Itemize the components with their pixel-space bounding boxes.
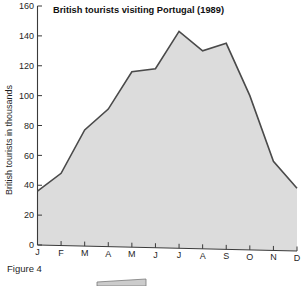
figure-caption: Figure 4 — [7, 263, 42, 274]
figure-container: 020406080100120140160 JFMAMJJASOND Briti… — [0, 0, 305, 286]
x-tick-label-july: J — [177, 250, 182, 260]
scan-artifact-mark — [97, 279, 146, 286]
y-axis-tick-labels: 020406080100120140160 — [19, 1, 34, 250]
x-tick-label-march: M — [81, 248, 89, 258]
x-tick-label-december: D — [294, 253, 301, 263]
y-tick-label-100: 100 — [19, 91, 34, 101]
y-tick-label-40: 40 — [24, 180, 34, 190]
y-axis-title: British tourists in thousands — [4, 84, 14, 195]
y-tick-label-160: 160 — [19, 1, 34, 11]
area-chart: 020406080100120140160 JFMAMJJASOND Briti… — [0, 0, 305, 286]
chart-title: British tourists visiting Portugal (1989… — [53, 5, 224, 15]
y-tick-label-140: 140 — [19, 31, 34, 41]
x-tick-label-october: O — [246, 252, 253, 262]
x-tick-label-may: M — [128, 249, 136, 259]
series-area-fill — [38, 31, 298, 251]
y-tick-label-20: 20 — [24, 210, 34, 220]
y-tick-label-80: 80 — [24, 121, 34, 131]
x-tick-label-february: F — [58, 248, 64, 258]
x-tick-label-april: A — [105, 249, 111, 259]
y-tick-label-0: 0 — [29, 240, 34, 250]
x-tick-label-november: N — [270, 252, 277, 262]
x-tick-label-august: A — [200, 251, 206, 261]
y-tick-label-60: 60 — [24, 151, 34, 161]
y-tick-label-120: 120 — [19, 61, 34, 71]
x-tick-label-september: S — [223, 251, 229, 261]
x-tick-label-january: J — [35, 247, 40, 257]
x-tick-label-june: J — [153, 250, 158, 260]
